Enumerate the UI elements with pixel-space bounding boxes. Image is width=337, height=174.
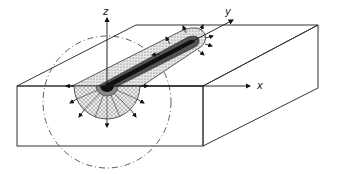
heat-tail bbox=[72, 28, 206, 86]
x-axis-label: x bbox=[256, 80, 263, 91]
heat-source-diagram: z x y bbox=[0, 0, 337, 174]
z-axis-label: z bbox=[102, 6, 109, 17]
y-axis-label: y bbox=[224, 6, 232, 17]
heat-flux-zone bbox=[74, 86, 140, 119]
